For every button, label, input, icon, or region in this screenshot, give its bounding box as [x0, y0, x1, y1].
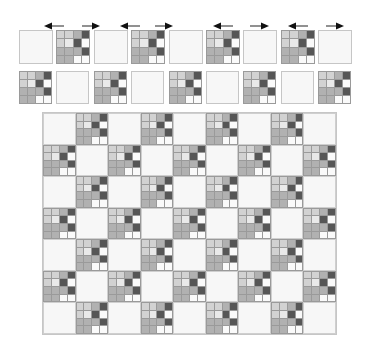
pattern-cell	[215, 326, 222, 333]
pattern-cell	[244, 72, 251, 79]
pattern-cell	[100, 326, 107, 333]
pattern-cell	[244, 96, 251, 103]
pattern-cell	[320, 224, 327, 231]
pattern-cell	[157, 122, 164, 129]
top-strip-blank-tile	[19, 30, 53, 64]
pattern-cell	[252, 96, 259, 103]
pattern-cell	[165, 177, 172, 184]
pattern-cell	[109, 224, 116, 231]
pattern-cell	[280, 122, 287, 129]
pattern-cell	[190, 161, 197, 168]
pattern-cell	[142, 326, 149, 333]
grid-blank-tile	[303, 302, 336, 334]
pattern-cell	[320, 146, 327, 153]
pattern-cell	[268, 72, 275, 79]
pattern-cell	[215, 48, 222, 55]
pattern-cell	[299, 48, 306, 55]
pattern-cell	[207, 256, 214, 263]
pattern-cell	[186, 96, 193, 103]
pattern-cell	[142, 129, 149, 136]
pattern-cell	[103, 96, 110, 103]
pattern-cell	[57, 39, 64, 46]
pattern-cell	[232, 31, 239, 38]
pattern-cell	[174, 224, 181, 231]
pattern-cell	[117, 272, 124, 279]
pattern-cell	[52, 216, 59, 223]
grid-blank-tile	[173, 113, 206, 145]
pattern-cell	[44, 72, 51, 79]
pattern-cell	[142, 303, 149, 310]
pattern-cell	[142, 177, 149, 184]
pattern-cell	[239, 224, 246, 231]
pattern-cell	[239, 153, 246, 160]
pattern-cell	[215, 177, 222, 184]
pattern-cell	[52, 168, 59, 175]
pattern-cell	[239, 161, 246, 168]
pattern-cell	[280, 311, 287, 318]
pattern-cell	[84, 114, 91, 121]
pattern-cell	[255, 168, 262, 175]
pattern-cell	[247, 295, 254, 302]
pattern-cell	[133, 272, 140, 279]
grid-pattern-tile	[173, 271, 206, 303]
pattern-cell	[327, 96, 334, 103]
pattern-cell	[247, 161, 254, 168]
pattern-cell	[150, 319, 157, 326]
pattern-cell	[52, 232, 59, 239]
pattern-cell	[157, 192, 164, 199]
pattern-cell	[84, 200, 91, 207]
pattern-cell	[44, 272, 51, 279]
grid-pattern-tile	[271, 176, 304, 208]
pattern-cell	[194, 96, 201, 103]
pattern-cell	[60, 216, 67, 223]
pattern-cell	[92, 326, 99, 333]
pattern-cell	[223, 200, 230, 207]
pattern-cell	[170, 88, 177, 95]
pattern-cell	[335, 80, 342, 87]
pattern-cell	[44, 161, 51, 168]
pattern-cell	[260, 88, 267, 95]
second-strip-pattern-tile	[318, 71, 351, 104]
pattern-cell	[142, 192, 149, 199]
pattern-cell	[150, 200, 157, 207]
pattern-cell	[100, 311, 107, 318]
pattern-cell	[111, 96, 118, 103]
grid-pattern-tile	[206, 113, 239, 145]
pattern-cell	[77, 311, 84, 318]
pattern-cell	[320, 272, 327, 279]
pattern-cell	[95, 88, 102, 95]
top-strip-pattern-tile	[131, 30, 165, 64]
grid-pattern-tile	[76, 176, 109, 208]
pattern-cell	[119, 80, 126, 87]
pattern-cell	[140, 56, 147, 63]
pattern-cell	[296, 122, 303, 129]
pattern-cell	[296, 137, 303, 144]
pattern-cell	[198, 295, 205, 302]
pattern-cell	[84, 303, 91, 310]
pattern-cell	[320, 216, 327, 223]
pattern-cell	[157, 31, 164, 38]
pattern-cell	[252, 72, 259, 79]
top-strip-blank-tile	[243, 30, 277, 64]
grid-blank-tile	[238, 176, 271, 208]
pattern-cell	[280, 240, 287, 247]
pattern-cell	[215, 56, 222, 63]
pattern-cell	[230, 122, 237, 129]
pattern-cell	[272, 137, 279, 144]
pattern-cell	[111, 72, 118, 79]
pattern-cell	[142, 137, 149, 144]
pattern-cell	[247, 209, 254, 216]
pattern-cell	[299, 31, 306, 38]
grid-pattern-tile	[43, 145, 76, 177]
pattern-cell	[280, 303, 287, 310]
pattern-cell	[182, 232, 189, 239]
pattern-cell	[125, 153, 132, 160]
pattern-cell	[319, 72, 326, 79]
pattern-cell	[36, 80, 43, 87]
pattern-cell	[165, 122, 172, 129]
pattern-cell	[215, 200, 222, 207]
grid-pattern-tile	[141, 176, 174, 208]
pattern-cell	[100, 263, 107, 270]
pattern-cell	[44, 287, 51, 294]
grid-blank-tile	[43, 239, 76, 271]
